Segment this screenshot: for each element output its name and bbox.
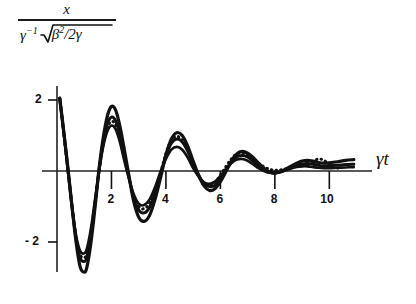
data-curves-group <box>60 98 354 272</box>
x-tick-label: 6 <box>216 192 223 206</box>
x-tick-label: 2 <box>107 192 114 206</box>
y-tick-label: - 2 <box>25 234 39 248</box>
curve-middle-solid <box>60 98 354 261</box>
curve-inner-solid <box>60 98 354 253</box>
x-tick-label: 4 <box>162 192 169 206</box>
chart-plot-area <box>0 0 416 304</box>
x-tick-label: 8 <box>271 192 278 206</box>
curve-dotted-curve <box>60 98 340 258</box>
x-tick-label: 10 <box>320 192 333 206</box>
y-tick-label: 2 <box>35 92 42 106</box>
